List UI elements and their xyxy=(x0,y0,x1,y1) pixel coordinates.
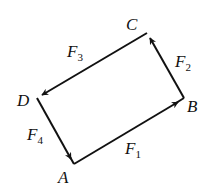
force-label-f3: F3 xyxy=(66,42,83,63)
point-label-d: D xyxy=(16,91,30,110)
vector-f3-arrow xyxy=(42,33,147,95)
vector-f4-tail xyxy=(70,157,74,164)
force-label-f1: F1 xyxy=(124,139,141,160)
point-label-a: A xyxy=(57,168,69,187)
point-label-c: C xyxy=(126,15,138,34)
vector-f4-arrow xyxy=(37,98,71,159)
force-diagram: C D B A F3 F2 F4 F1 xyxy=(0,0,211,189)
point-label-b: B xyxy=(187,97,198,116)
force-label-f2: F2 xyxy=(174,52,191,73)
vector-f1-tail xyxy=(176,98,184,103)
force-label-f4: F4 xyxy=(26,125,43,146)
